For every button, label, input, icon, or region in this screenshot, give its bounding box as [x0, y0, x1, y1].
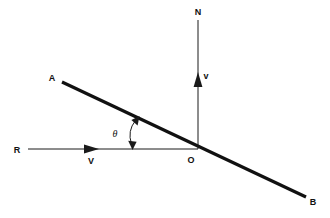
- label-velocity-vertical-v: v: [203, 71, 208, 81]
- diagram-canvas: A B O N R V v θ: [0, 0, 330, 218]
- vector-diagram-figure: A B O N R V v θ: [0, 0, 330, 218]
- line-ab: [62, 82, 306, 197]
- label-angle-theta: θ: [113, 128, 118, 139]
- label-b: B: [310, 197, 317, 207]
- label-origin-o: O: [187, 155, 194, 165]
- label-n: N: [195, 7, 202, 17]
- label-a: A: [49, 73, 56, 83]
- label-velocity-horizontal-v: V: [88, 156, 94, 166]
- label-r: R: [14, 145, 21, 155]
- arrowhead-v-horizontal-icon: [84, 145, 99, 154]
- arrowhead-v-vertical-icon: [194, 72, 203, 87]
- angle-arc-theta: [130, 121, 136, 145]
